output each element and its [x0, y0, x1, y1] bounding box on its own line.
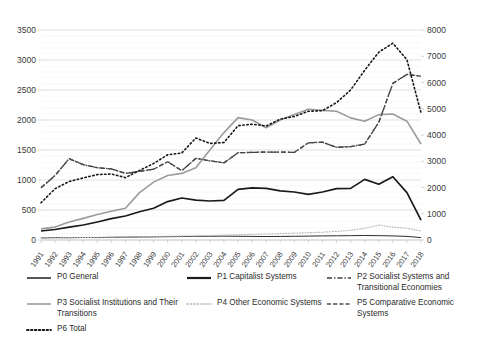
x-axis-tick-label: 2013 [338, 250, 355, 269]
x-axis-tick-label: 2003 [197, 250, 214, 269]
y2-axis-tick-label: 0 [427, 235, 432, 245]
series-line-P0 [41, 236, 421, 238]
legend-line-swatch-icon [186, 273, 212, 283]
legend-item-label: P6 Total [57, 324, 86, 335]
legend-item-p5[interactable]: P5 Comparative Economic Systems [326, 298, 474, 319]
y-axis-tick-label: 1500 [17, 145, 36, 155]
y-axis-tick-label: 500 [22, 205, 36, 215]
y2-axis-tick-label: 6000 [427, 78, 446, 88]
legend-line-swatch-icon [26, 299, 52, 309]
x-axis-tick-label: 2012 [324, 250, 341, 269]
x-axis-tick-label: 2010 [296, 250, 313, 269]
legend-item-label: P5 Comparative Economic Systems [357, 298, 474, 319]
legend-item-label: P3 Socialist Institutions and Their Tran… [57, 298, 182, 319]
legend-item-p0[interactable]: P0 General [26, 272, 98, 283]
legend-item-label: P4 Other Economic Systems [217, 298, 322, 309]
y-axis-tick-label: 2500 [17, 85, 36, 95]
y-axis-tick-label: 0 [31, 235, 36, 245]
legend-item-label: P0 General [57, 272, 98, 283]
y-axis-tick-label: 2000 [17, 115, 36, 125]
x-axis-tick-label: 2011 [310, 250, 327, 269]
y-axis-tick-label: 3000 [17, 55, 36, 65]
y-axis-tick-label: 1000 [17, 175, 36, 185]
x-axis-tick-label: 2018 [409, 250, 426, 269]
series-line-P5 [41, 74, 421, 187]
legend-item-p2[interactable]: P2 Socialist Systems and Transitional Ec… [326, 272, 474, 293]
series-line-P2 [41, 74, 421, 187]
x-axis-tick-label: 2002 [183, 250, 200, 269]
legend-line-swatch-icon [326, 273, 352, 283]
x-axis-tick-label: 2005 [226, 250, 243, 269]
y2-axis-tick-label: 2000 [427, 183, 446, 193]
series-line-P3 [41, 109, 421, 229]
y2-axis-tick-label: 3000 [427, 156, 446, 166]
x-axis-tick-label: 1993 [57, 250, 74, 269]
y2-axis-tick-label: 1000 [427, 209, 446, 219]
legend-item-label: P2 Socialist Systems and Transitional Ec… [357, 272, 474, 293]
x-axis-tick-label: 2006 [240, 250, 257, 269]
x-axis-tick-label: 1997 [113, 250, 130, 269]
x-axis-tick-label: 1992 [43, 250, 60, 269]
x-axis-tick-label: 2017 [394, 250, 411, 269]
legend-item-p3[interactable]: P3 Socialist Institutions and Their Tran… [26, 298, 182, 319]
chart-legend: P0 GeneralP1 Capitalist SystemsP2 Social… [26, 272, 474, 350]
y-axis-tick-label: 3500 [17, 25, 36, 35]
x-axis-tick-label: 1991 [29, 250, 46, 269]
y2-axis-tick-label: 5000 [427, 104, 446, 114]
x-axis-tick-label: 2008 [268, 250, 285, 269]
x-axis-tick-label: 2007 [254, 250, 271, 269]
x-axis-tick-label: 2001 [169, 250, 186, 269]
y2-axis-tick-label: 4000 [427, 130, 446, 140]
x-axis-tick-label: 1999 [141, 250, 158, 269]
x-axis-tick-label: 1998 [127, 250, 144, 269]
x-axis-tick-label: 2014 [352, 250, 369, 269]
x-axis-tick-label: 2000 [155, 250, 172, 269]
legend-item-p4[interactable]: P4 Other Economic Systems [186, 298, 322, 309]
x-axis-tick-label: 2004 [212, 250, 229, 269]
legend-line-swatch-icon [186, 299, 212, 309]
legend-line-swatch-icon [26, 325, 52, 335]
y2-axis-tick-label: 8000 [427, 25, 446, 35]
x-axis-tick-label: 1995 [85, 250, 102, 269]
x-axis-tick-label: 2016 [380, 250, 397, 269]
x-axis-tick-label: 1994 [71, 250, 88, 269]
legend-line-swatch-icon [326, 299, 352, 309]
x-axis-tick-label: 2009 [282, 250, 299, 269]
legend-item-p1[interactable]: P1 Capitalist Systems [186, 272, 297, 283]
legend-item-p6[interactable]: P6 Total [26, 324, 86, 335]
y2-axis-tick-label: 7000 [427, 51, 446, 61]
x-axis-tick-label: 2015 [366, 250, 383, 269]
legend-line-swatch-icon [26, 273, 52, 283]
legend-item-label: P1 Capitalist Systems [217, 272, 297, 283]
x-axis-tick-label: 1996 [99, 250, 116, 269]
